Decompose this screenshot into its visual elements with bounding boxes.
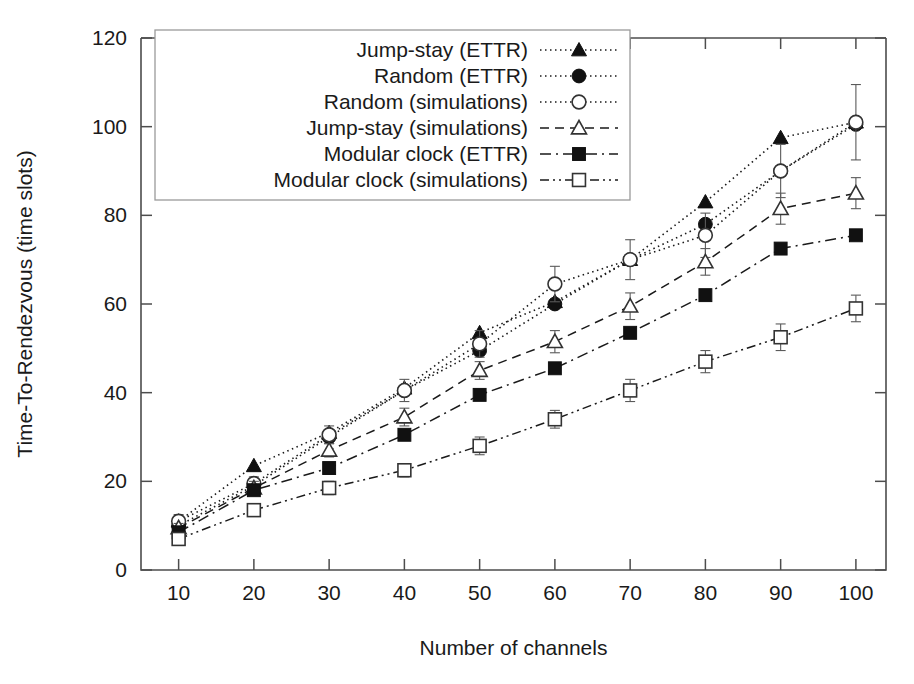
marker-open-square — [624, 384, 637, 397]
marker-open-square — [548, 413, 561, 426]
marker-open-triangle — [698, 254, 713, 267]
marker-filled-triangle — [698, 195, 713, 208]
y-tick-label-60: 60 — [104, 292, 127, 315]
marker-open-circle — [322, 428, 336, 442]
x-axis-title-text: Number of channels — [420, 636, 608, 659]
y-tick-label-80: 80 — [104, 203, 127, 226]
marker-filled-square — [849, 229, 862, 242]
y-tick-label-40: 40 — [104, 381, 127, 404]
legend: Jump-stay (ETTR)Random (ETTR)Random (sim… — [155, 30, 630, 200]
marker-filled-triangle — [246, 458, 261, 471]
x-tick-label-40: 40 — [393, 581, 416, 604]
marker-filled-square — [247, 484, 260, 497]
y-tick-label-0: 0 — [115, 558, 127, 581]
marker-open-square — [699, 355, 712, 368]
x-tick-label-100: 100 — [838, 581, 873, 604]
x-tick-label-10: 10 — [167, 581, 190, 604]
marker-filled-square — [323, 462, 336, 475]
marker-open-circle — [623, 253, 637, 267]
marker-open-triangle — [848, 186, 863, 199]
marker-filled-square — [699, 289, 712, 302]
y-tick-label-20: 20 — [104, 469, 127, 492]
marker-open-circle — [473, 337, 487, 351]
marker-filled-square — [774, 242, 787, 255]
x-tick-label-30: 30 — [317, 581, 340, 604]
marker-open-circle — [397, 384, 411, 398]
marker-open-triangle — [472, 363, 487, 376]
x-tick-label-80: 80 — [694, 581, 717, 604]
chart-figure: 020406080100120102030405060708090100Numb… — [0, 0, 914, 684]
marker-open-circle — [572, 95, 586, 109]
marker-open-square — [774, 331, 787, 344]
marker-open-triangle — [397, 410, 412, 423]
marker-open-triangle — [623, 299, 638, 312]
legend-item-label-0: Jump-stay (ETTR) — [356, 38, 528, 61]
marker-open-square — [473, 439, 486, 452]
legend-item-label-4: Modular clock (ETTR) — [324, 142, 528, 165]
legend-item-label-1: Random (ETTR) — [374, 64, 528, 87]
marker-open-triangle — [773, 201, 788, 214]
marker-open-square — [323, 482, 336, 495]
marker-filled-circle — [572, 69, 586, 83]
marker-open-square — [573, 174, 586, 187]
series-line-3 — [179, 193, 856, 528]
legend-item-label-5: Modular clock (simulations) — [274, 168, 528, 191]
marker-open-circle — [849, 115, 863, 129]
y-tick-label-100: 100 — [92, 115, 127, 138]
legend-item-label-3: Jump-stay (simulations) — [306, 116, 528, 139]
marker-open-triangle — [547, 334, 562, 347]
marker-filled-square — [398, 428, 411, 441]
series-line-5 — [179, 308, 856, 539]
x-tick-label-60: 60 — [543, 581, 566, 604]
marker-filled-square — [573, 148, 586, 161]
marker-filled-square — [473, 388, 486, 401]
marker-open-triangle — [322, 443, 337, 456]
x-tick-label-20: 20 — [242, 581, 265, 604]
marker-open-circle — [774, 164, 788, 178]
x-tick-label-70: 70 — [618, 581, 641, 604]
marker-open-square — [247, 504, 260, 517]
x-tick-label-90: 90 — [769, 581, 792, 604]
y-axis-title-text: Time-To-Rendezvous (time slots) — [13, 150, 36, 457]
series-line-4 — [179, 235, 856, 532]
marker-filled-square — [548, 362, 561, 375]
marker-open-square — [398, 464, 411, 477]
marker-open-circle — [698, 228, 712, 242]
marker-filled-triangle — [773, 130, 788, 143]
series-5 — [172, 295, 862, 545]
legend-item-label-2: Random (simulations) — [324, 90, 528, 113]
marker-open-circle — [548, 277, 562, 291]
marker-open-square — [172, 533, 185, 546]
series-3 — [171, 178, 863, 534]
chart-canvas: 020406080100120102030405060708090100Numb… — [0, 0, 914, 684]
series-4 — [172, 229, 862, 539]
y-tick-label-120: 120 — [92, 26, 127, 49]
x-tick-label-50: 50 — [468, 581, 491, 604]
marker-open-square — [849, 302, 862, 315]
marker-filled-square — [624, 326, 637, 339]
